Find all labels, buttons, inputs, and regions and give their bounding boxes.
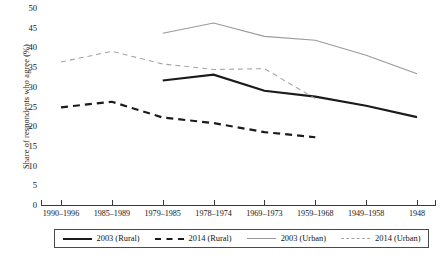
y-tick-label: 45 xyxy=(28,23,37,33)
series-layer xyxy=(41,8,435,205)
legend-item[interactable]: 2003 (Urban) xyxy=(247,234,326,243)
legend-swatch-icon xyxy=(247,238,276,239)
y-tick-label: 40 xyxy=(28,42,37,52)
line-chart: Share of respondents who agree (%) 05101… xyxy=(0,0,447,259)
legend-swatch-icon xyxy=(341,238,370,239)
y-tick-label: 25 xyxy=(28,102,37,112)
x-tick-label: 1978–1974 xyxy=(195,209,231,218)
legend-label: 2003 (Rural) xyxy=(97,234,140,243)
legend-swatch-icon xyxy=(155,238,184,240)
legend-swatch-icon xyxy=(63,238,92,240)
x-tick-label: 1948 xyxy=(409,209,425,218)
chart-legend: 2003 (Rural)2014 (Rural)2003 (Urban)2014… xyxy=(54,229,429,248)
series-line xyxy=(163,75,417,118)
y-tick-label: 15 xyxy=(28,141,37,151)
legend-item[interactable]: 2014 (Urban) xyxy=(341,234,420,243)
x-axis-end-cap xyxy=(435,200,436,206)
x-tick-label: 1985–1989 xyxy=(94,209,130,218)
series-line xyxy=(163,23,417,74)
y-tick-label: 5 xyxy=(33,180,37,190)
x-axis-end-cap xyxy=(41,200,42,206)
y-tick-label: 50 xyxy=(28,3,37,13)
x-tick xyxy=(417,200,418,206)
x-tick xyxy=(214,200,215,206)
legend-item[interactable]: 2003 (Rural) xyxy=(63,234,140,243)
legend-label: 2014 (Urban) xyxy=(375,234,420,243)
x-tick xyxy=(366,200,367,206)
y-tick-label: 30 xyxy=(28,82,37,92)
x-tick xyxy=(264,200,265,206)
x-tick xyxy=(163,200,164,206)
x-tick-label: 1990–1996 xyxy=(43,209,79,218)
x-tick-label: 1979–1985 xyxy=(144,209,180,218)
x-tick xyxy=(315,200,316,206)
y-tick-label: 20 xyxy=(28,121,37,131)
x-axis-line xyxy=(41,205,435,206)
x-tick xyxy=(61,200,62,206)
y-tick-label: 10 xyxy=(28,161,37,171)
x-tick-label: 1959–1968 xyxy=(297,209,333,218)
plot-area: 05101520253035404550 1990–19961985–19891… xyxy=(41,8,435,205)
series-line xyxy=(61,102,315,137)
x-tick-label: 1949–1958 xyxy=(348,209,384,218)
x-tick xyxy=(112,200,113,206)
legend-label: 2014 (Rural) xyxy=(189,234,232,243)
x-tick-label: 1969–1973 xyxy=(246,209,282,218)
legend-label: 2003 (Urban) xyxy=(281,234,326,243)
y-tick-label: 35 xyxy=(28,62,37,72)
legend-item[interactable]: 2014 (Rural) xyxy=(155,234,232,243)
y-tick-label: 0 xyxy=(33,200,37,210)
